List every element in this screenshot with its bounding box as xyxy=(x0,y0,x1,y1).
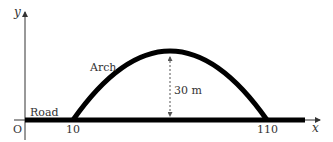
origin-label: O xyxy=(13,123,22,136)
tick-10-label: 10 xyxy=(66,123,80,136)
arch-diagram: y x O Road Arch 30 m 10 110 xyxy=(0,0,333,142)
arch-label: Arch xyxy=(89,61,116,74)
tick-110-label: 110 xyxy=(257,123,278,136)
road-label: Road xyxy=(30,106,59,119)
x-axis-label: x xyxy=(312,121,319,135)
y-axis-label: y xyxy=(13,5,21,19)
height-label: 30 m xyxy=(174,84,202,97)
